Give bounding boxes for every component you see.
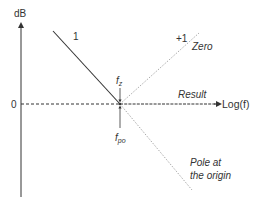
- slope-neg-label: 1: [73, 31, 79, 42]
- fz-label: fz: [116, 75, 123, 87]
- bode-diagram: dB 0 Log(f) 1 +1 Zero Pole at the origin…: [0, 0, 255, 197]
- fpo-label: fpo: [115, 132, 126, 145]
- slope-pos-label: +1: [176, 33, 188, 44]
- y-axis-label: dB: [14, 8, 27, 19]
- pole-origin-line: [120, 104, 192, 190]
- pole-label-line2: the origin: [190, 170, 232, 181]
- zero-curve-label: Zero: [191, 41, 213, 52]
- result-label: Result: [178, 89, 208, 100]
- corner-point: [119, 103, 121, 105]
- zero-db-label: 0: [11, 99, 17, 110]
- pole-label-line1: Pole at: [190, 157, 222, 168]
- pole-slope-line: [53, 31, 120, 104]
- x-axis-label: Log(f): [222, 98, 249, 110]
